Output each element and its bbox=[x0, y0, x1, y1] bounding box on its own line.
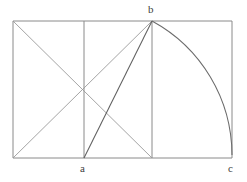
vertex-label-c: c bbox=[228, 163, 233, 174]
construction-drawing bbox=[0, 0, 247, 182]
figure-background bbox=[0, 0, 247, 182]
golden-rectangle-figure: a b c bbox=[0, 0, 247, 182]
vertex-label-b: b bbox=[148, 4, 154, 15]
vertex-label-a: a bbox=[80, 163, 85, 174]
